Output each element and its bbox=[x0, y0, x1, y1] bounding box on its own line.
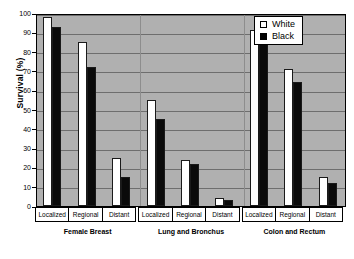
y-axis-tick-label: 70 bbox=[6, 68, 31, 75]
y-axis-tick-label: 10 bbox=[6, 184, 31, 191]
bar-white-regional bbox=[181, 160, 190, 206]
white-square-icon bbox=[260, 21, 267, 28]
bar-white-localized bbox=[250, 30, 259, 206]
y-axis-tick-label: 20 bbox=[6, 164, 31, 171]
legend-item: Black bbox=[260, 32, 295, 41]
x-axis-group-block: LocalizedRegionalDistant bbox=[36, 207, 139, 222]
group-separator bbox=[140, 15, 141, 206]
x-axis-group-title: Colon and Rectum bbox=[243, 224, 346, 238]
group-separator bbox=[244, 15, 245, 206]
x-axis-category-label: Regional bbox=[172, 207, 206, 222]
x-axis-category-label: Distant bbox=[205, 207, 239, 222]
x-axis-group-title: Female Breast bbox=[36, 224, 139, 238]
bar-white-localized bbox=[147, 100, 156, 206]
x-axis-category-label: Regional bbox=[275, 207, 309, 222]
y-axis-tick-label: 40 bbox=[6, 126, 31, 133]
y-axis-tick-label: 0 bbox=[6, 203, 31, 210]
bar-black-regional bbox=[190, 164, 199, 206]
bar-black-distant bbox=[121, 177, 130, 206]
x-axis-category-label: Regional bbox=[68, 207, 102, 222]
bar-black-distant bbox=[224, 200, 233, 206]
x-axis-group-block: LocalizedRegionalDistant bbox=[139, 207, 242, 222]
x-axis-category-label: Distant bbox=[102, 207, 136, 222]
x-axis-group-row: Female BreastLung and BronchusColon and … bbox=[36, 224, 346, 238]
x-axis-category-row: LocalizedRegionalDistantLocalizedRegiona… bbox=[36, 207, 346, 222]
x-axis-category-label: Localized bbox=[138, 207, 172, 222]
y-axis-tick-label: 60 bbox=[6, 87, 31, 94]
bar-black-distant bbox=[328, 183, 337, 206]
bar-white-regional bbox=[78, 42, 87, 206]
bar-black-localized bbox=[52, 27, 61, 206]
legend-label: Black bbox=[272, 32, 294, 41]
bar-white-distant bbox=[319, 177, 328, 206]
legend-item: White bbox=[260, 20, 295, 29]
bar-white-distant bbox=[112, 158, 121, 206]
y-axis-tick-label: 90 bbox=[6, 29, 31, 36]
x-axis-category-label: Localized bbox=[242, 207, 276, 222]
survival-bar-chart-figure: Survival (%) 1009080706050403020100 Whit… bbox=[0, 0, 354, 259]
black-square-icon bbox=[260, 33, 267, 40]
bar-black-localized bbox=[259, 34, 268, 206]
bar-white-distant bbox=[215, 198, 224, 206]
legend: WhiteBlack bbox=[254, 16, 303, 45]
y-axis-tick-label: 30 bbox=[6, 145, 31, 152]
bar-white-localized bbox=[43, 17, 52, 206]
x-axis-group-block: LocalizedRegionalDistant bbox=[243, 207, 346, 222]
x-axis-category-label: Distant bbox=[309, 207, 343, 222]
bar-black-regional bbox=[87, 67, 96, 206]
y-axis-tick-label: 100 bbox=[6, 10, 31, 17]
x-axis-category-label: Localized bbox=[35, 207, 69, 222]
x-axis-group-title: Lung and Bronchus bbox=[139, 224, 242, 238]
bar-white-regional bbox=[284, 69, 293, 206]
bar-black-localized bbox=[156, 119, 165, 206]
y-axis-tick-label: 80 bbox=[6, 49, 31, 56]
legend-label: White bbox=[272, 20, 295, 29]
bar-black-regional bbox=[293, 82, 302, 206]
y-axis-tick-label: 50 bbox=[6, 107, 31, 114]
